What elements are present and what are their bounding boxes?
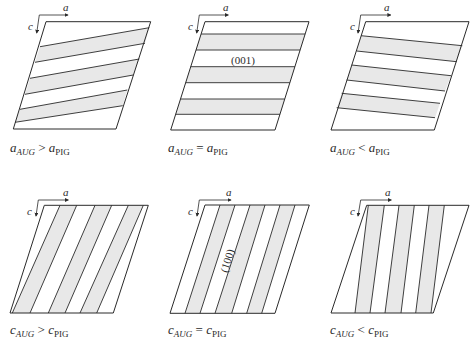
c-axis-label: c <box>27 205 32 217</box>
c-axis-label: c <box>350 20 355 32</box>
shaded-band <box>357 36 463 62</box>
c-axis-label: c <box>350 205 355 217</box>
panel-c-greater: accAUG > cPIG <box>10 186 148 339</box>
shaded-band <box>196 34 305 50</box>
axis-indicator: ac <box>188 1 229 33</box>
c-axis-arrow-icon <box>358 15 361 33</box>
shaded-band <box>347 65 451 91</box>
condition-label: cAUG = cPIG <box>168 322 227 339</box>
c-axis-arrow-icon <box>197 200 199 216</box>
panel-a-less: acaAUG < aPIG <box>330 1 469 157</box>
a-axis-label: a <box>63 1 69 13</box>
a-axis-label: a <box>384 1 390 13</box>
condition-label: aAUG < aPIG <box>330 140 390 157</box>
shaded-band <box>416 205 445 313</box>
shaded-band <box>186 67 295 83</box>
shaded-band <box>337 93 440 117</box>
axis-indicator: ac <box>350 1 391 33</box>
a-axis-label: a <box>63 186 69 198</box>
c-axis-arrow-icon <box>36 200 38 216</box>
shaded-band <box>15 90 127 122</box>
c-axis-arrow-icon <box>358 200 361 216</box>
c-axis-label: c <box>28 20 33 32</box>
a-axis-label: a <box>385 186 391 198</box>
condition-label: cAUG < cPIG <box>330 322 389 339</box>
panel-a-greater: acaAUG > aPIG <box>10 1 151 157</box>
shaded-band <box>385 205 414 313</box>
c-axis-label: c <box>188 205 193 217</box>
a-axis-label: a <box>223 1 229 13</box>
lattice-orientation-figure: acaAUG > aPIGac(001)aAUG = aPIGacaAUG < … <box>0 0 474 348</box>
condition-label: aAUG = aPIG <box>168 140 228 157</box>
shaded-band <box>355 205 384 313</box>
condition-label: aAUG > aPIG <box>10 140 70 157</box>
panel-a-equal: ac(001)aAUG = aPIG <box>168 1 309 157</box>
c-axis-arrow-icon <box>37 15 40 33</box>
panel-c-less: accAUG < cPIG <box>330 186 469 339</box>
plane-index-label: (001) <box>231 54 255 67</box>
axis-indicator: ac <box>28 1 69 33</box>
a-axis-label: a <box>226 186 232 198</box>
condition-label: cAUG > cPIG <box>10 322 69 339</box>
c-axis-label: c <box>188 20 193 32</box>
panel-c-equal: ac(100)cAUG = cPIG <box>168 186 309 339</box>
shaded-band <box>176 99 285 114</box>
c-axis-arrow-icon <box>197 15 200 33</box>
